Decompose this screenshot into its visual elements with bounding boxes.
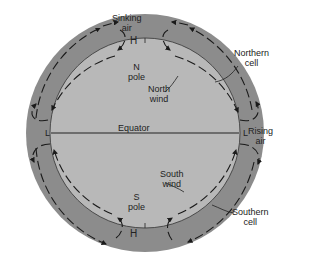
northern-cell-label: Northern cell (234, 49, 269, 68)
s-pole-label: S pole (128, 193, 145, 212)
rising-air-line2: air (248, 137, 273, 147)
s-pole-line2: pole (128, 203, 145, 213)
southern-cell-line2: cell (232, 218, 269, 228)
north-wind-line2: wind (148, 95, 170, 105)
n-pole-label: N pole (128, 63, 145, 82)
n-pole-line2: pole (128, 73, 145, 83)
high-pressure-bottom: H (130, 229, 137, 238)
south-wind-label: South wind (160, 170, 184, 189)
rising-air-label: Rising air (248, 127, 273, 146)
sinking-air-label: Sinking air (112, 14, 142, 33)
north-wind-label: North wind (148, 85, 170, 104)
low-pressure-left: L (45, 129, 50, 138)
south-wind-line2: wind (160, 180, 184, 190)
southern-cell-label: Southern cell (232, 208, 269, 227)
equator-label: Equator (118, 124, 150, 133)
northern-cell-line2: cell (234, 59, 269, 69)
sinking-air-line2: air (112, 24, 142, 34)
high-pressure-top: H (130, 36, 137, 45)
